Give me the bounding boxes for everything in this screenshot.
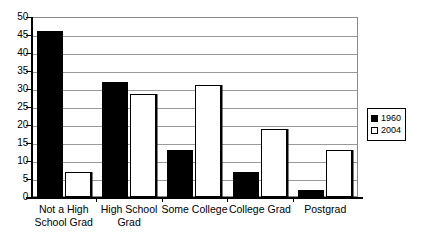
y-axis-tick-label: 45 — [2, 30, 28, 40]
legend-item-2004: 2004 — [371, 125, 401, 136]
chart-legend: 1960 2004 — [367, 108, 406, 141]
bar-1960 — [102, 82, 128, 197]
y-axis-tick-label: 10 — [2, 156, 28, 166]
bar-1960 — [233, 172, 259, 197]
y-axis-tick-label: 25 — [2, 102, 28, 112]
bar-2004 — [261, 129, 287, 197]
y-axis-tick-mark — [26, 197, 31, 198]
bar-group — [31, 17, 96, 197]
y-axis-tick-label: 40 — [2, 48, 28, 58]
x-axis-tick-mark — [293, 197, 294, 202]
legend-swatch-1960-icon — [371, 115, 378, 122]
x-axis-line — [26, 197, 363, 199]
bar-1960 — [167, 150, 193, 197]
bar-2004 — [130, 94, 156, 197]
bar-2004 — [326, 150, 352, 197]
legend-swatch-2004-icon — [371, 127, 378, 134]
bar-group — [96, 17, 161, 197]
y-axis-tick-label: 35 — [2, 66, 28, 76]
bar-chart: 05101520253035404550 Not a HighSchool Gr… — [0, 0, 421, 244]
y-axis-tick-label: 30 — [2, 84, 28, 94]
x-axis-category-label: Postgrad — [285, 203, 366, 216]
bar-group — [162, 17, 227, 197]
y-axis-tick-label: 20 — [2, 120, 28, 130]
x-axis-tick-mark — [96, 197, 97, 202]
bar-group — [227, 17, 292, 197]
y-axis-tick-label: 5 — [2, 174, 28, 184]
bar-series-layer — [31, 17, 358, 197]
legend-label-2004: 2004 — [381, 126, 401, 135]
bar-1960 — [298, 190, 324, 197]
x-axis-tick-mark — [227, 197, 228, 202]
y-axis-tick-label: 50 — [2, 12, 28, 22]
legend-item-1960: 1960 — [371, 113, 401, 124]
bar-2004 — [65, 172, 91, 197]
bar-group — [293, 17, 358, 197]
legend-label-1960: 1960 — [381, 114, 401, 123]
bar-2004 — [195, 85, 221, 197]
y-axis-tick-label: 15 — [2, 138, 28, 148]
bar-1960 — [37, 31, 63, 197]
y-axis-tick-label: 0 — [2, 192, 28, 202]
x-axis-tick-mark — [162, 197, 163, 202]
